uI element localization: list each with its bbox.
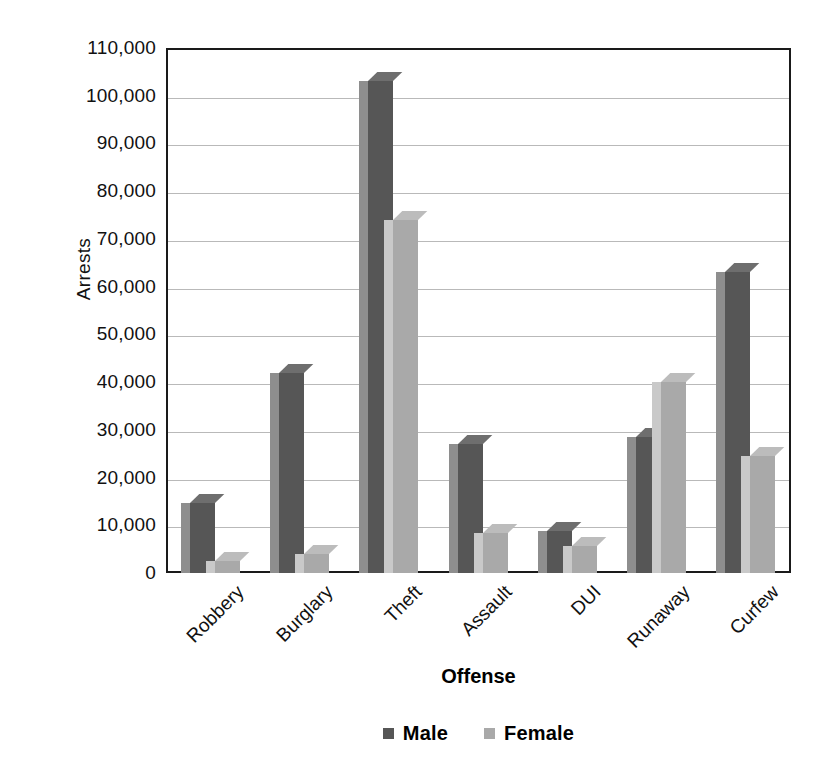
y-axis-tick-labels: 010,00020,00030,00040,00050,00060,00070,… [44, 0, 156, 765]
y-axis-tick-label: 20,000 [46, 468, 156, 487]
gridline [168, 384, 789, 385]
y-axis-tick-label: 90,000 [46, 133, 156, 152]
legend-item-male[interactable]: Male [383, 722, 448, 745]
gridline [168, 193, 789, 194]
y-axis-tick-label: 100,000 [46, 86, 156, 105]
legend-label: Female [504, 722, 574, 745]
x-axis-tick-labels: RobberyBurglaryTheftAssaultDUIRunawayCur… [166, 573, 791, 663]
legend-swatch-icon [383, 728, 394, 739]
y-axis-tick-label: 110,000 [46, 38, 156, 57]
y-axis-tick-label: 0 [46, 563, 156, 582]
legend-label: Male [403, 722, 448, 745]
y-axis-tick-label: 10,000 [46, 515, 156, 534]
chart-legend: MaleFemale [166, 722, 791, 745]
gridline [168, 480, 789, 481]
gridline [168, 336, 789, 337]
gridline [168, 527, 789, 528]
x-axis-title: Offense [166, 665, 791, 688]
y-axis-tick-label: 70,000 [46, 229, 156, 248]
gridline [168, 289, 789, 290]
legend-item-female[interactable]: Female [484, 722, 574, 745]
y-axis-tick-label: 80,000 [46, 181, 156, 200]
gridline [168, 145, 789, 146]
gridline [168, 98, 789, 99]
legend-swatch-icon [484, 728, 495, 739]
y-axis-tick-label: 60,000 [46, 277, 156, 296]
plot-area [166, 48, 791, 573]
y-axis-tick-label: 40,000 [46, 372, 156, 391]
y-axis-tick-label: 50,000 [46, 324, 156, 343]
gridline [168, 241, 789, 242]
gridline [168, 432, 789, 433]
bar-chart: Arrests 010,00020,00030,00040,00050,0006… [0, 0, 831, 765]
y-axis-tick-label: 30,000 [46, 420, 156, 439]
